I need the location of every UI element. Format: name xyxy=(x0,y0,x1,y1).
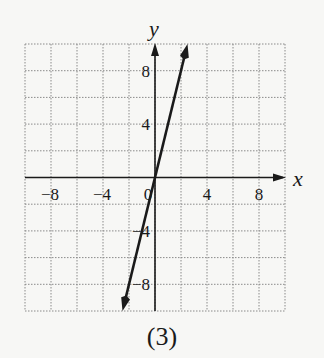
figure-caption: (3) xyxy=(0,322,324,352)
y-tick-label: 4 xyxy=(142,115,151,134)
x-tick-label: −4 xyxy=(93,185,112,204)
y-tick-label: −8 xyxy=(132,275,150,294)
x-tick-label: 8 xyxy=(255,185,264,204)
y-tick-label: 8 xyxy=(142,62,151,81)
y-axis-arrow-icon xyxy=(151,43,159,56)
x-tick-label: −8 xyxy=(41,185,59,204)
x-axis-arrow-icon xyxy=(273,174,286,182)
x-tick-label: 4 xyxy=(203,185,212,204)
line-graph: −8−404884−4−8 x y xyxy=(0,0,324,358)
y-axis-label: y xyxy=(147,16,159,41)
x-axis-label: x xyxy=(292,166,303,191)
